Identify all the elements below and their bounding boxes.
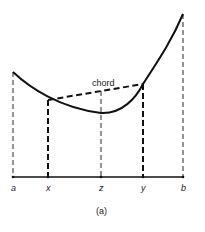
label-z: z <box>98 183 104 193</box>
label-b: b <box>181 183 186 193</box>
label-a: a <box>11 183 16 193</box>
chord-label: chord <box>92 78 115 88</box>
convexity-diagram: chord a x z y b (a) <box>0 0 205 232</box>
convex-curve <box>13 14 183 113</box>
label-x: x <box>45 183 51 193</box>
figure-caption: (a) <box>96 206 107 216</box>
label-y: y <box>140 183 146 193</box>
